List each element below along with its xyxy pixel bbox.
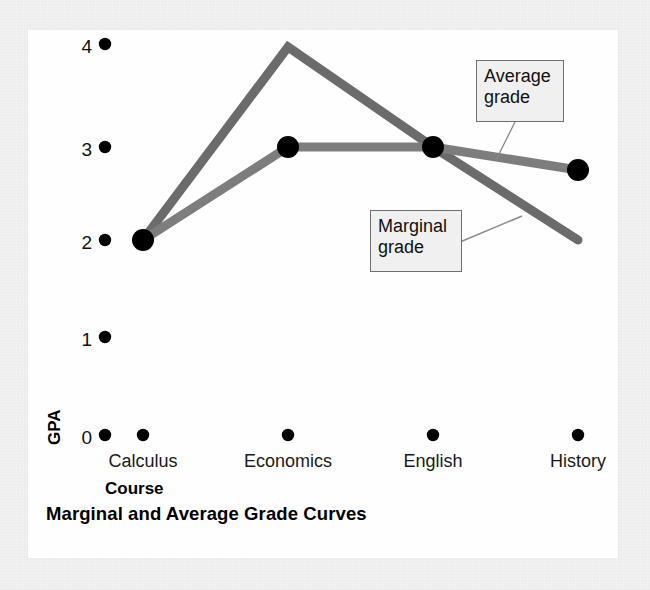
x-axis-tick-dots [137,429,584,441]
callout-marginal-grade-line2: grade [378,237,454,258]
y-tick-label-3: 3 [64,140,92,159]
y-axis-title: GPA [46,409,63,445]
x-tick-label-history: History [508,452,648,470]
y-tick-dot-0 [99,429,111,441]
callout-average-grade-line2: grade [484,87,556,108]
marginal-grade-leader-line [460,216,522,242]
x-tick-label-calculus: Calculus [73,452,213,470]
x-tick-dot-english [427,429,439,441]
x-tick-label-economics: Economics [218,452,358,470]
y-tick-dot-4 [99,38,111,50]
y-tick-label-1: 1 [64,330,92,349]
data-point-english [422,136,444,158]
y-tick-dot-2 [99,234,111,246]
y-tick-label-0: 0 [64,428,92,447]
data-point-calculus [132,229,154,251]
callout-average-grade-line1: Average [484,66,556,87]
y-tick-dot-1 [99,331,111,343]
y-tick-dot-3 [99,141,111,153]
y-tick-label-2: 2 [64,233,92,252]
y-axis-tick-dots [99,38,111,441]
x-tick-label-english: English [363,452,503,470]
x-axis-title: Course [105,480,164,497]
chart-screenshot: 0 1 2 3 4 Calculus Economics English His… [0,0,650,590]
callout-average-grade: Average grade [476,60,564,122]
data-point-economics-average [277,136,299,158]
x-tick-dot-calculus [137,429,149,441]
callout-marginal-grade-line1: Marginal [378,216,454,237]
y-tick-label-4: 4 [64,37,92,56]
chart-title: Marginal and Average Grade Curves [46,503,367,525]
callout-marginal-grade: Marginal grade [370,210,462,272]
data-point-history-average [567,159,589,181]
chart-panel: 0 1 2 3 4 Calculus Economics English His… [28,30,618,558]
data-point-markers [132,136,589,251]
x-tick-dot-history [572,429,584,441]
x-tick-dot-economics [282,429,294,441]
